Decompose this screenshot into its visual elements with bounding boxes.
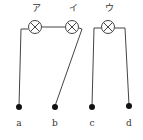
terminal-a-dot	[16, 104, 22, 110]
terminal-b-dot	[52, 104, 58, 110]
lamp-u-label: ウ	[105, 3, 114, 13]
lamp-i-label: イ	[69, 3, 78, 13]
circuit-diagram: ア イ ウ a b c d	[0, 0, 143, 140]
terminal-a-label: a	[16, 118, 22, 128]
wire-d	[115, 28, 129, 105]
terminal-d-dot	[126, 103, 132, 109]
terminal-c-label: c	[89, 118, 94, 128]
terminal-d-label: d	[126, 118, 132, 128]
wires	[19, 27, 129, 106]
lamp-u-symbol	[102, 21, 115, 34]
lamp-a-label: ア	[32, 3, 41, 13]
lamp-i-symbol	[66, 21, 79, 34]
terminal-b-label: b	[52, 118, 58, 128]
terminal-c-dot	[89, 104, 95, 110]
wire-a	[19, 29, 28, 106]
wire-c	[92, 28, 101, 106]
lamp-a-symbol	[29, 21, 42, 34]
wire-b	[55, 28, 82, 106]
